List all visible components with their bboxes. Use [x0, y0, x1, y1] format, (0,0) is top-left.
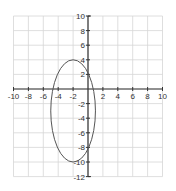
- x-tick-label: -4: [55, 92, 63, 101]
- y-tick-label: -12: [73, 173, 85, 182]
- y-tick-label: 2: [81, 70, 86, 79]
- y-tick-label: -4: [78, 114, 86, 123]
- x-tick-label: -8: [25, 92, 33, 101]
- x-tick-label: -6: [40, 92, 48, 101]
- y-tick-label: 10: [76, 12, 85, 21]
- y-tick-label: -8: [78, 143, 86, 152]
- x-tick-label: 4: [116, 92, 121, 101]
- y-tick-label: -2: [78, 100, 86, 109]
- axes: [14, 16, 163, 177]
- x-tick-label: -10: [8, 92, 20, 101]
- x-tick-label: 10: [158, 92, 167, 101]
- x-tick-label: 8: [145, 92, 150, 101]
- y-tick-label: 6: [81, 41, 86, 50]
- y-tick-label: 8: [81, 27, 86, 36]
- coordinate-plane: -10-8-6-4-2246810 108642-2-4-6-8-10-12: [0, 0, 176, 191]
- x-tick-label: 2: [101, 92, 106, 101]
- x-tick-label: 6: [130, 92, 135, 101]
- y-tick-label: -6: [78, 129, 86, 138]
- x-tick-label: -2: [70, 92, 78, 101]
- y-tick-label: -10: [73, 158, 85, 167]
